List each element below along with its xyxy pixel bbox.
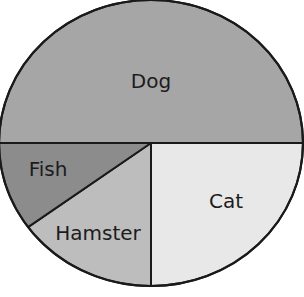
pie-slices bbox=[0, 0, 303, 286]
pie-chart: Dog Cat Hamster Fish bbox=[0, 0, 304, 297]
label-fish: Fish bbox=[29, 157, 68, 181]
label-hamster: Hamster bbox=[55, 221, 141, 245]
label-cat: Cat bbox=[209, 189, 243, 213]
slice-cat bbox=[151, 143, 303, 286]
label-dog: Dog bbox=[131, 69, 171, 93]
